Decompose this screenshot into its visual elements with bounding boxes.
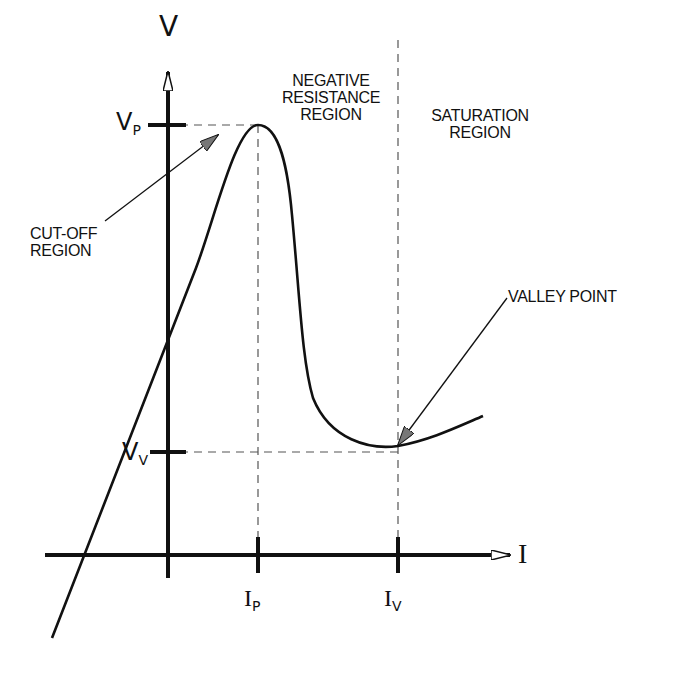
i-axis-label: I	[518, 538, 527, 570]
vv-label-sub: V	[138, 452, 148, 468]
characteristic-curve	[52, 125, 483, 638]
vp-label: VP	[116, 108, 141, 136]
cutoff-arrow	[105, 135, 218, 221]
iv-label-sub: V	[392, 598, 402, 614]
valley-point-label: VALLEY POINT	[508, 288, 617, 305]
nr-line-2: RESISTANCE	[268, 89, 394, 106]
sat-line-2: REGION	[406, 124, 554, 141]
cutoff-line-1: CUT-OFF	[30, 225, 126, 242]
iv-label-main: I	[384, 585, 392, 611]
cutoff-line-2: REGION	[30, 242, 126, 259]
vp-label-sub: P	[132, 122, 140, 138]
v-axis-label: V	[159, 10, 178, 43]
ip-label-main: I	[244, 585, 252, 611]
vp-label-main: V	[116, 108, 132, 136]
vv-label-main: V	[122, 438, 138, 466]
saturation-region-label: SATURATION REGION	[406, 107, 554, 141]
cutoff-region-label: CUT-OFF REGION	[30, 225, 126, 259]
sat-line-1: SATURATION	[406, 107, 554, 124]
nr-line-1: NEGATIVE	[268, 72, 394, 89]
nr-line-3: REGION	[268, 106, 394, 123]
ip-label: IP	[244, 585, 260, 612]
negative-resistance-region-label: NEGATIVE RESISTANCE REGION	[268, 72, 394, 123]
valley-point-arrow	[398, 298, 507, 445]
ip-label-sub: P	[252, 598, 260, 614]
iv-label: IV	[384, 585, 402, 612]
vv-label: VV	[122, 438, 148, 466]
